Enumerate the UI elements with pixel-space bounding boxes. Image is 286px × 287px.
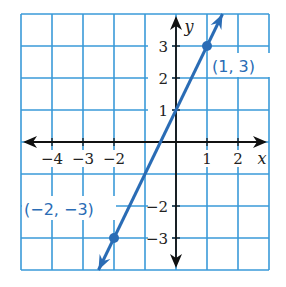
x-tick-label: −4 (41, 150, 63, 168)
data-point (109, 233, 119, 243)
y-tick-label: 1 (158, 102, 168, 120)
x-tick-label: −2 (103, 150, 125, 168)
x-tick-label: −3 (72, 150, 94, 168)
y-tick-label: −2 (146, 198, 168, 216)
coordinate-plane: −4−3−212321−2−3xy (1, 3)(−2, −3) (0, 0, 286, 287)
x-tick-label: 1 (202, 150, 212, 168)
data-point (202, 41, 212, 51)
x-axis-label: x (257, 149, 266, 168)
y-tick-label: 3 (158, 38, 168, 56)
point-label: (1, 3) (212, 57, 255, 76)
point-label: (−2, −3) (24, 200, 94, 219)
y-tick-label: −3 (146, 230, 168, 248)
x-tick-label: 2 (233, 150, 243, 168)
y-axis-label: y (183, 17, 194, 36)
y-tick-label: 2 (158, 70, 168, 88)
